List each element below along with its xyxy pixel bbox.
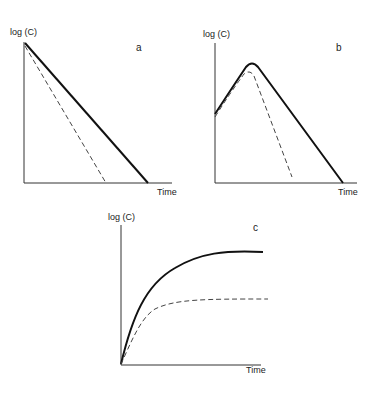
panel-a-axes bbox=[24, 42, 172, 183]
panel-c: log (C) c Time bbox=[108, 212, 268, 375]
panel-a-ylabel: log (C) bbox=[10, 27, 37, 37]
panel-b-label: b bbox=[336, 42, 342, 53]
panel-b-dashed-line bbox=[215, 72, 292, 177]
panel-c-axes bbox=[121, 225, 261, 365]
panel-a-dashed-line bbox=[25, 46, 106, 183]
panel-b-xlabel: Time bbox=[338, 187, 358, 197]
panel-b: log (C) b Time bbox=[203, 29, 358, 197]
panel-b-solid-line bbox=[215, 64, 343, 184]
panel-a-label: a bbox=[136, 42, 142, 53]
panel-c-label: c bbox=[253, 222, 258, 233]
panel-b-ylabel: log (C) bbox=[203, 29, 230, 39]
panel-a-solid-line bbox=[25, 43, 148, 183]
panel-c-dashed-line bbox=[121, 299, 268, 364]
panel-a-xlabel: Time bbox=[157, 187, 177, 197]
panel-a: log (C) a Time bbox=[10, 27, 177, 197]
figure: log (C) a Time log (C) b Time log (C) c … bbox=[0, 0, 369, 395]
panel-c-solid-line bbox=[121, 251, 263, 364]
panel-c-xlabel: Time bbox=[246, 365, 266, 375]
panel-c-ylabel: log (C) bbox=[108, 212, 135, 222]
